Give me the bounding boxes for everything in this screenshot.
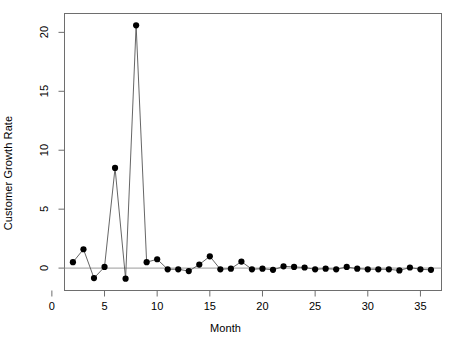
data-point [259, 266, 265, 272]
y-tick-label: 20 [36, 21, 52, 43]
axis-ticks [52, 32, 421, 296]
data-point [101, 264, 107, 270]
data-point [80, 246, 86, 252]
plot-frame [65, 14, 442, 291]
data-point [386, 266, 392, 272]
data-point [375, 266, 381, 272]
data-point [70, 259, 76, 265]
y-tick-label: 15 [36, 80, 52, 102]
data-point [249, 266, 255, 272]
data-point [291, 264, 297, 270]
series-points [70, 22, 434, 282]
y-tick-label: 0 [36, 257, 52, 279]
data-point [280, 263, 286, 269]
x-tick-label: 5 [91, 300, 119, 312]
data-point [270, 267, 276, 273]
data-point [428, 267, 434, 273]
data-point [154, 256, 160, 262]
x-tick-label: 25 [301, 300, 329, 312]
plot-svg [0, 0, 451, 346]
data-point [217, 266, 223, 272]
x-axis-title: Month [0, 322, 451, 334]
data-point [354, 266, 360, 272]
data-point [207, 253, 213, 259]
data-point [186, 268, 192, 274]
x-tick-label: 20 [248, 300, 276, 312]
x-tick-label: 30 [354, 300, 382, 312]
data-point [344, 264, 350, 270]
plot-border [65, 14, 442, 291]
data-point [228, 266, 234, 272]
data-point [323, 266, 329, 272]
series-line [73, 25, 431, 278]
data-point [196, 261, 202, 267]
y-tick-label: 5 [36, 198, 52, 220]
data-point [396, 267, 402, 273]
data-point [238, 259, 244, 265]
x-tick-label: 0 [38, 300, 66, 312]
data-point [122, 276, 128, 282]
data-point [91, 275, 97, 281]
data-point [407, 264, 413, 270]
data-point [165, 266, 171, 272]
y-tick-label: 10 [36, 139, 52, 161]
y-axis-title: Customer Growth Rate [0, 0, 16, 346]
data-point [312, 266, 318, 272]
data-point [365, 266, 371, 272]
data-point [175, 266, 181, 272]
data-point [133, 22, 139, 28]
data-point [302, 264, 308, 270]
x-tick-label: 10 [143, 300, 171, 312]
data-point [144, 259, 150, 265]
series-polyline [73, 25, 431, 278]
chart-container: Customer Growth Rate Month 0510152025303… [0, 0, 451, 346]
x-tick-label: 15 [196, 300, 224, 312]
data-point [417, 266, 423, 272]
x-tick-label: 35 [406, 300, 434, 312]
data-point [333, 266, 339, 272]
data-point [112, 165, 118, 171]
